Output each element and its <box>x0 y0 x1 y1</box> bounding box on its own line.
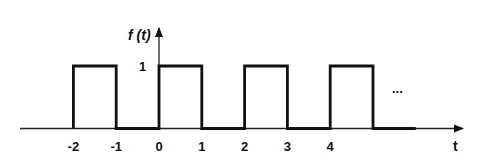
x-tick-label: 2 <box>241 139 248 154</box>
x-tick-label: -2 <box>68 139 80 154</box>
y-axis-label: f (t) <box>128 27 151 43</box>
x-tick-label: 1 <box>198 139 205 154</box>
amplitude-label: 1 <box>139 59 146 74</box>
x-tick-label: 4 <box>327 139 335 154</box>
square-wave-diagram: f (t) t 1 ... -2-101234 <box>0 0 482 166</box>
x-tick-label: 3 <box>284 139 291 154</box>
x-axis-label: t <box>453 138 458 154</box>
square-wave-signal <box>73 66 415 129</box>
x-tick-label: 0 <box>155 139 162 154</box>
x-tick-label: -1 <box>110 139 122 154</box>
x-tick-labels: -2-101234 <box>68 139 335 154</box>
continuation-ellipsis: ... <box>392 81 403 96</box>
